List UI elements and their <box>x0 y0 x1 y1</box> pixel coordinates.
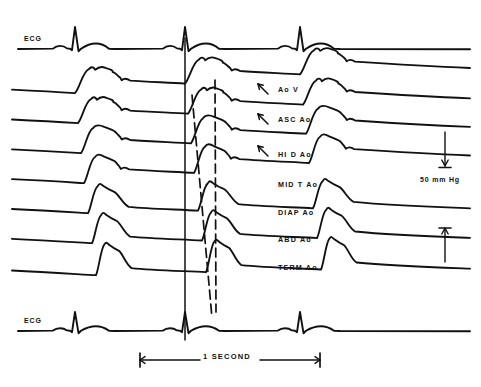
notch-arrow-hi-d-ao <box>258 146 268 156</box>
annotation-lines <box>185 38 216 340</box>
waveform-canvas <box>0 0 481 387</box>
ecg-trace-bottom <box>18 312 470 333</box>
pressure-trace-mid-t-ao <box>12 134 470 183</box>
calibration-label: 50 mm Hg <box>420 176 460 183</box>
pressure-trace-aov <box>12 48 470 93</box>
trace-label-term-ao: TERM Ao <box>278 263 318 272</box>
pressure-trace-diap-ao <box>12 179 470 213</box>
peak-propagation-line <box>215 80 216 312</box>
pressure-trace-asc-ao <box>12 78 470 123</box>
pressure-traces <box>12 48 470 275</box>
trace-label-ao-v: Ao V <box>278 85 299 94</box>
calibration-bar-lower <box>439 228 451 262</box>
trace-label-abd-ao: ABD Ao <box>278 235 312 244</box>
foot-propagation-line <box>192 95 212 318</box>
trace-label-diap-ao: DIAP Ao <box>278 208 314 217</box>
calibration-bar-upper <box>439 132 451 168</box>
notch-arrow-asc-ao <box>258 114 268 124</box>
trace-label-mid-t-ao: MID T Ao <box>278 180 318 189</box>
time-bar-label: 1 SECOND <box>203 352 251 361</box>
dicrotic-notch-arrows <box>258 84 268 156</box>
pressure-trace-hi-d-ao <box>12 106 470 153</box>
ecg-label-top: ECG <box>24 35 42 42</box>
aortic-pressure-waveform-figure: ECG ECG Ao V ASC Ao HI D Ao MID T Ao DIA… <box>0 0 481 387</box>
trace-label-hi-d-ao: HI D Ao <box>278 150 312 159</box>
trace-label-asc-ao: ASC Ao <box>278 115 311 124</box>
notch-arrow-aov <box>258 84 268 94</box>
ecg-label-bottom: ECG <box>24 317 42 324</box>
ecg-trace-top <box>18 27 470 51</box>
